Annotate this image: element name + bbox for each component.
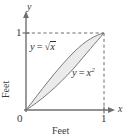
x-tick-label-1: 1	[101, 113, 107, 124]
x-axis-arrowhead	[108, 107, 115, 113]
y-tick-label-1: 1	[16, 27, 22, 38]
area-between-curves-figure: y x 1 1 0 Feet Feet y=√x y=x2	[0, 0, 131, 140]
sqrt-curve-label: y=√x	[30, 41, 56, 53]
y-axis-label: y	[27, 2, 31, 12]
x-axis-unit-label: Feet	[52, 126, 69, 136]
sqrt-curve-lhs: y	[30, 41, 35, 52]
square-curve-label: y=x2	[72, 68, 95, 79]
sqrt-curve-radicand: x	[50, 41, 56, 53]
square-curve-lhs: y	[72, 67, 77, 78]
y-axis-unit-label: Feet	[1, 81, 11, 98]
x-axis-label: x	[118, 104, 122, 114]
square-curve-exponent: 2	[91, 66, 95, 74]
y-axis-arrowhead	[23, 11, 29, 18]
square-curve-operator: =	[79, 67, 85, 78]
origin-label: 0	[17, 113, 23, 124]
radical-sign: √x	[45, 41, 56, 53]
sqrt-curve-operator: =	[37, 41, 43, 52]
